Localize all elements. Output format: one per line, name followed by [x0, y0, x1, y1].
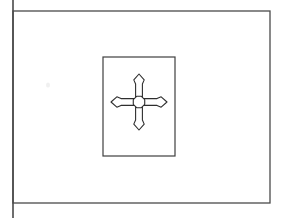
- up-arrow-arm: [134, 74, 144, 97]
- line-drawing-svg: [0, 0, 287, 218]
- paper-background: [0, 0, 287, 218]
- scan-artifact-layer: [46, 83, 50, 88]
- left-arrow-arm: [111, 97, 134, 107]
- right-arrow-arm: [144, 97, 167, 107]
- scan-speck: [46, 83, 50, 88]
- arrow-center-hub: [133, 96, 144, 107]
- down-arrow-arm: [134, 107, 144, 130]
- scanned-drawing-canvas: Four-Way Directional Arrow Diagram A sca…: [0, 0, 287, 218]
